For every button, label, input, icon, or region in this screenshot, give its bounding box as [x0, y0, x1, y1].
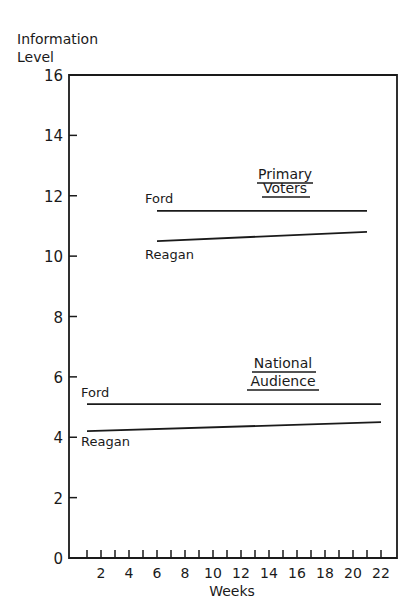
group-label-national-line1: National: [254, 355, 312, 371]
series-lines: [87, 211, 381, 431]
series-label-reagan-national: Reagan: [81, 434, 130, 449]
x-tick-label: 14: [260, 565, 278, 581]
y-tick-label: 10: [44, 248, 63, 266]
annotations: Primary Voters Ford Reagan National Audi…: [81, 166, 319, 599]
x-tick-label: 12: [232, 565, 250, 581]
x-tick-label: 20: [344, 565, 362, 581]
y-tick-label: 0: [53, 550, 63, 568]
y-tick-label: 2: [53, 490, 63, 508]
x-tick-label: 10: [204, 565, 222, 581]
y-tick-label: 12: [44, 188, 63, 206]
series-label-reagan-primary: Reagan: [145, 247, 194, 262]
group-label-national-line2: Audience: [250, 373, 315, 389]
line-reagan-national-audience: [87, 422, 381, 431]
x-tick-label: 18: [316, 565, 334, 581]
axes: 0246810121416246810121416182022: [44, 67, 397, 581]
x-tick-label: 16: [288, 565, 306, 581]
x-tick-label: 6: [153, 565, 162, 581]
x-axis-title: Weeks: [209, 583, 255, 599]
y-tick-label: 16: [44, 67, 63, 85]
y-tick-label: 4: [53, 429, 63, 447]
y-tick-label: 8: [53, 309, 63, 327]
group-label-primary-line2: Voters: [263, 180, 307, 196]
x-tick-label: 4: [125, 565, 134, 581]
y-tick-label: 14: [44, 127, 63, 145]
line-chart: 0246810121416246810121416182022 Primary …: [0, 0, 415, 608]
series-label-ford-national: Ford: [81, 385, 109, 400]
series-label-ford-primary: Ford: [145, 191, 173, 206]
plot-frame: [69, 75, 397, 558]
x-tick-label: 2: [97, 565, 106, 581]
x-tick-label: 22: [372, 565, 390, 581]
line-reagan-primary-voters: [157, 232, 367, 241]
x-tick-label: 8: [181, 565, 190, 581]
y-tick-label: 6: [53, 369, 63, 387]
